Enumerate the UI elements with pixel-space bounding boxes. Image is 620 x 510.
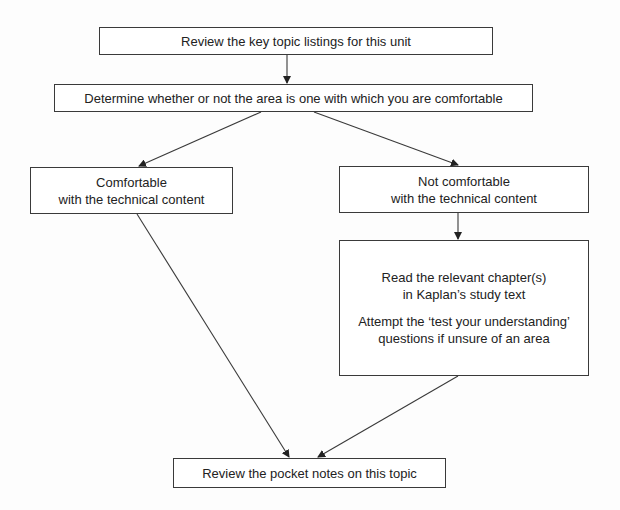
arrow-determine-to-not-comfortable: [314, 112, 458, 165]
attempt-test-line-2: questions if unsure of an area: [378, 330, 549, 347]
node-label-line-2: with the technical content: [391, 190, 537, 207]
node-comfortable: Comfortable with the technical content: [30, 167, 233, 214]
node-label-line-2: with the technical content: [59, 191, 205, 208]
node-determine-comfort: Determine whether or not the area is one…: [54, 84, 533, 112]
read-chapter-line-1: Read the relevant chapter(s): [382, 269, 547, 286]
arrow-comfortable-to-pocket-notes: [137, 214, 289, 457]
arrow-determine-to-comfortable: [139, 112, 261, 166]
node-label: Review the key topic listings for this u…: [181, 33, 411, 50]
node-label-line-1: Not comfortable: [418, 173, 510, 190]
node-study-text: Read the relevant chapter(s) in Kaplan’s…: [339, 240, 589, 376]
node-review-topic-listings: Review the key topic listings for this u…: [99, 27, 493, 55]
read-chapter-line-2: in Kaplan’s study text: [403, 286, 526, 303]
node-label: Determine whether or not the area is one…: [84, 90, 502, 107]
node-label: Review the pocket notes on this topic: [202, 465, 417, 482]
attempt-test-line-1: Attempt the ‘test your understanding’: [358, 313, 570, 330]
node-not-comfortable: Not comfortable with the technical conte…: [339, 166, 589, 213]
node-label-line-1: Comfortable: [96, 174, 167, 191]
arrow-study-to-pocket-notes: [318, 376, 458, 457]
node-review-pocket-notes: Review the pocket notes on this topic: [173, 458, 446, 488]
